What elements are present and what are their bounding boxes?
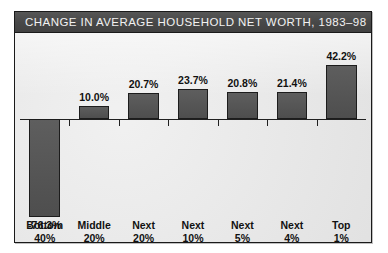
- category-label-line2: 1%: [317, 232, 366, 245]
- bar-4: [178, 89, 209, 119]
- category-label-line2: 5%: [218, 232, 267, 245]
- axis-tick: [267, 119, 268, 126]
- bar-1: [29, 119, 60, 217]
- category-label: Bottom40%: [20, 219, 69, 244]
- bar-value-label: 23.7%: [168, 74, 217, 86]
- category-label-line1: Next: [231, 219, 254, 231]
- category-label-line1: Next: [280, 219, 303, 231]
- axis-tick: [317, 119, 318, 126]
- bar-3: [128, 93, 159, 119]
- category-label-line2: 4%: [267, 232, 316, 245]
- plot-area: -76.3%Bottom40%10.0%Middle20%20.7%Next20…: [15, 33, 371, 242]
- bar-6: [277, 92, 308, 119]
- bar-value-label: 20.8%: [218, 77, 267, 89]
- category-label: Next5%: [218, 219, 267, 244]
- axis-tick: [69, 119, 70, 126]
- category-label-line2: 20%: [69, 232, 118, 245]
- category-label-line1: Next: [182, 219, 205, 231]
- axis-tick: [218, 119, 219, 126]
- category-label: Next10%: [168, 219, 217, 244]
- category-label-line1: Next: [132, 219, 155, 231]
- category-label-line2: 10%: [168, 232, 217, 245]
- axis-tick: [168, 119, 169, 126]
- bar-value-label: 42.2%: [317, 50, 366, 62]
- chart-figure: CHANGE IN AVERAGE HOUSEHOLD NET WORTH, 1…: [14, 11, 372, 243]
- category-label: Next20%: [119, 219, 168, 244]
- category-label-line2: 20%: [119, 232, 168, 245]
- bar-2: [79, 106, 110, 119]
- category-label-line1: Middle: [78, 219, 111, 231]
- bar-value-label: 10.0%: [69, 91, 118, 103]
- chart-title-bar: CHANGE IN AVERAGE HOUSEHOLD NET WORTH, 1…: [15, 12, 371, 33]
- category-label-line2: 40%: [20, 232, 69, 245]
- bar-5: [227, 92, 258, 119]
- category-label: Top1%: [317, 219, 366, 244]
- bar-series: -76.3%Bottom40%10.0%Middle20%20.7%Next20…: [20, 33, 366, 242]
- axis-tick: [119, 119, 120, 126]
- category-label-line1: Top: [332, 219, 350, 231]
- bar-value-label: 21.4%: [267, 77, 316, 89]
- bar-value-label: 20.7%: [119, 78, 168, 90]
- category-label-line1: Bottom: [26, 219, 63, 231]
- category-label: Next4%: [267, 219, 316, 244]
- chart-title: CHANGE IN AVERAGE HOUSEHOLD NET WORTH, 1…: [25, 16, 367, 28]
- bar-7: [326, 65, 357, 119]
- category-label: Middle20%: [69, 219, 118, 244]
